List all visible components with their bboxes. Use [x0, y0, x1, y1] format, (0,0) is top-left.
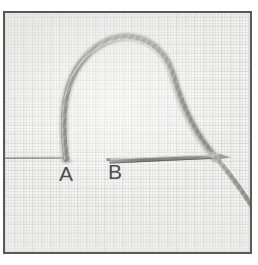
- label-b: B: [108, 161, 122, 182]
- thread-under-fabric-left: [5, 157, 68, 159]
- thread-loop: [62, 37, 216, 159]
- stitch-artwork: [5, 13, 250, 252]
- label-a: A: [59, 163, 73, 184]
- thread-tail: [211, 154, 250, 206]
- photo-frame: A B: [3, 11, 252, 254]
- screenshot-root: A B: [0, 0, 258, 265]
